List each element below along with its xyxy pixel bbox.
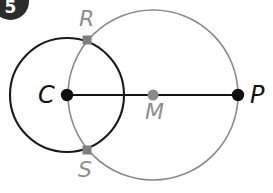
point-label-r: R — [79, 8, 94, 30]
point-s-marker — [83, 146, 92, 155]
point-label-p: P — [250, 83, 264, 107]
point-label-c: C — [38, 83, 55, 107]
geometry-figure: C R S M P 5 — [0, 0, 273, 193]
point-p-marker — [232, 89, 244, 101]
point-label-s: S — [78, 159, 92, 181]
point-label-m: M — [145, 101, 164, 123]
point-c-marker — [61, 89, 73, 101]
point-r-marker — [83, 36, 92, 45]
